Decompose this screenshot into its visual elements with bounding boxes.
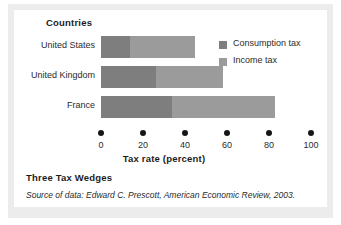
x-axis-tick-label: 40	[180, 140, 190, 150]
legend-swatch-icon	[219, 41, 227, 49]
stacked-bar[interactable]	[101, 66, 223, 88]
x-axis-tick-label: 20	[138, 140, 148, 150]
category-label: United Kingdom	[14, 70, 95, 80]
stacked-bar[interactable]	[101, 36, 196, 58]
chart-area: Countries United States United Kingdom	[14, 10, 327, 168]
x-axis-tick-label: 60	[222, 140, 232, 150]
figure-source: Source of data: Edward C. Prescott, Amer…	[26, 190, 295, 200]
x-axis-tick-dot	[98, 130, 104, 136]
legend-swatch-icon	[219, 58, 227, 66]
x-axis-tick-label: 80	[264, 140, 274, 150]
figure-container: Countries United States United Kingdom	[0, 0, 341, 225]
x-axis-tick-label: 100	[303, 140, 318, 150]
figure-card: Countries United States United Kingdom	[14, 10, 327, 207]
x-axis: Tax rate (percent) 020406080100	[14, 130, 327, 164]
source-year: 2003.	[274, 190, 295, 200]
x-axis-tick-label: 0	[98, 140, 103, 150]
bar-segment-consumption-tax[interactable]	[101, 96, 172, 118]
bar-segment-consumption-tax[interactable]	[101, 66, 156, 88]
bar-segment-income-tax[interactable]	[156, 66, 223, 88]
legend-item-consumption-tax[interactable]: Consumption tax	[219, 38, 329, 52]
x-axis-title: Tax rate (percent)	[123, 153, 206, 164]
x-axis-tick-dot	[266, 130, 272, 136]
source-journal: American Economic Review,	[164, 190, 272, 200]
source-author: Edward C. Prescott,	[86, 190, 162, 200]
legend-item-income-tax[interactable]: Income tax	[219, 55, 329, 69]
bar-segment-income-tax[interactable]	[172, 96, 275, 118]
x-axis-tick-dot	[182, 130, 188, 136]
legend-label: Income tax	[233, 55, 277, 65]
source-prefix: Source of data:	[26, 190, 84, 200]
stacked-bar[interactable]	[101, 96, 275, 118]
bar-segment-income-tax[interactable]	[130, 36, 195, 58]
category-label: France	[14, 100, 95, 110]
divider	[26, 167, 315, 168]
legend-label: Consumption tax	[233, 38, 301, 48]
categories-axis-heading: Countries	[46, 17, 92, 28]
x-axis-tick-dot	[308, 130, 314, 136]
x-axis-tick-dot	[140, 130, 146, 136]
figure-title: Three Tax Wedges	[26, 172, 112, 183]
bar-segment-consumption-tax[interactable]	[101, 36, 130, 58]
x-axis-tick-dot	[224, 130, 230, 136]
bar-row-france: France	[14, 96, 327, 118]
category-label: United States	[14, 40, 95, 50]
chart-legend: Consumption tax Income tax	[219, 38, 329, 72]
